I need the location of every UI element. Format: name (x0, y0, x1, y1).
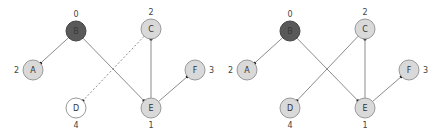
node-label: C (148, 25, 154, 34)
node-b: B0 (280, 10, 300, 41)
node-f: F3 (185, 60, 214, 80)
edge-e-f (373, 75, 403, 102)
graph-canvas: B0A2C2D4E1F3B0A2C2D4E1F3 (0, 0, 445, 133)
node-distance: 4 (287, 121, 292, 130)
node-distance: 1 (148, 121, 153, 130)
node-a: A2 (228, 60, 257, 80)
edge-b-e (83, 38, 146, 102)
right-graph: B0A2C2D4E1F3 (228, 8, 428, 130)
edge-e-c (363, 37, 366, 98)
edge-e-f (159, 75, 189, 102)
node-e: E1 (355, 98, 375, 130)
left-graph: B0A2C2D4E1F3 (14, 8, 214, 130)
node-label: E (148, 104, 153, 113)
node-label: A (30, 66, 36, 75)
node-label: B (73, 27, 79, 36)
node-distance: 4 (73, 121, 78, 130)
edge-b-a (39, 38, 69, 65)
node-distance: 3 (209, 66, 214, 75)
node-distance: 2 (228, 66, 233, 75)
node-distance: 2 (148, 8, 153, 17)
node-label: D (287, 104, 293, 113)
node-label: B (287, 27, 293, 36)
node-c: C2 (141, 8, 161, 39)
node-d: D4 (280, 98, 300, 130)
node-label: F (407, 66, 412, 75)
node-label: A (244, 66, 250, 75)
node-distance: 0 (287, 10, 292, 19)
node-label: E (362, 104, 367, 113)
node-e: E1 (141, 98, 161, 130)
node-b: B0 (66, 10, 86, 41)
node-distance: 3 (423, 66, 428, 75)
node-c: C2 (355, 8, 375, 39)
node-label: F (193, 66, 198, 75)
node-label: D (73, 104, 79, 113)
node-distance: 2 (14, 66, 19, 75)
edge-e-c (149, 37, 152, 98)
node-distance: 2 (362, 8, 367, 17)
edge-b-a (253, 38, 283, 65)
node-f: F3 (399, 60, 428, 80)
edge-b-e (297, 38, 360, 102)
node-a: A2 (14, 60, 43, 80)
node-distance: 1 (362, 121, 367, 130)
node-label: C (362, 25, 368, 34)
node-distance: 0 (73, 10, 78, 19)
node-d: D4 (66, 98, 86, 130)
